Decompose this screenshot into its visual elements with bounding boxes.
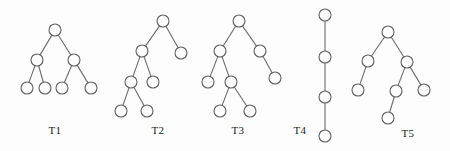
tree-edge [134,87,144,106]
tree-node-leaf [147,76,159,88]
tree-edge [166,26,178,48]
tree-edge [398,68,405,86]
tree-edge [371,37,384,56]
tree-label-t5: T5 [402,127,415,139]
tree-node-root [382,26,394,38]
tree-label-t3: T3 [232,124,245,136]
tree-edge [58,35,71,55]
tree-node-root [49,24,61,36]
tree-edge [222,88,229,106]
tree-node-leaf [319,130,331,142]
tree-node-leaf [352,84,364,96]
tree-node-root [157,15,169,27]
nodes-layer [21,9,430,142]
tree-node-root [233,15,245,27]
tree-label-t1: T1 [49,124,62,136]
tree-edge [133,57,140,77]
tree-node-leaf [382,112,394,124]
tree-node-root [319,9,331,21]
tree-edge [144,57,151,77]
tree-node-leaf [85,82,97,94]
tree-edge [242,26,256,46]
tree-edge [263,56,272,73]
tree-node-leaf [418,84,430,96]
tree-node-leaf [39,82,51,94]
tree-edge [410,67,421,85]
tree-edge [234,87,246,106]
tree-label-t4: T4 [294,124,307,136]
tree-node-internal [254,45,266,57]
tree-node-leaf [269,72,281,84]
tree-node-internal [136,45,148,57]
tree-node-internal [68,54,80,66]
tree-figure: T1T2T3T4T5 [0,0,450,151]
tree-edge [210,57,218,77]
tree-edge [64,66,71,83]
tree-edge [40,35,52,55]
tree-node-internal [401,56,413,68]
tree-edge [222,57,229,77]
tree-node-leaf [115,105,127,117]
tree-node-leaf [214,105,226,117]
tree-node-leaf [141,105,153,117]
tree-node-leaf [56,82,68,94]
tree-edge [145,26,159,46]
tree-node-internal [319,91,331,103]
tree-node-leaf [175,47,187,59]
tree-edge [391,37,404,57]
tree-edge [223,26,236,46]
tree-node-internal [319,51,331,63]
tree-node-internal [125,76,137,88]
tree-node-internal [362,55,374,67]
tree-node-internal [31,54,43,66]
tree-edge [123,88,129,106]
tree-label-t2: T2 [152,124,165,136]
tree-edge [39,66,44,82]
tree-node-leaf [244,105,256,117]
tree-edge [77,65,88,83]
tree-node-internal [214,45,226,57]
tree-diagram-canvas [0,0,450,151]
tree-node-internal [225,76,237,88]
tree-edge [360,67,366,85]
tree-edge [29,66,35,83]
tree-node-internal [390,85,402,97]
tree-edge [390,97,395,113]
tree-node-leaf [21,82,33,94]
tree-node-leaf [202,76,214,88]
